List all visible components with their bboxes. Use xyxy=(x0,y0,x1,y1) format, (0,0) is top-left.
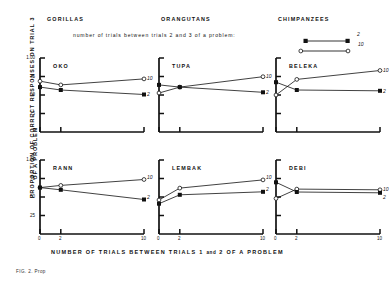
panel-title-debi: DEBI xyxy=(289,165,307,171)
series-label-beleka-2: 2 xyxy=(383,88,386,94)
xtick-rann-2: 2 xyxy=(59,236,62,241)
ytick-rann-75: 75 xyxy=(19,176,35,181)
group-heading-orangutans: ORANGUTANS xyxy=(161,16,211,22)
ytick-oko-100: 1.00 xyxy=(19,55,35,60)
xtick-rann-0: 0 xyxy=(38,236,41,241)
ytick-rann-50: 50 xyxy=(19,194,35,199)
x-axis-title: NUMBER OF TRIALS BETWEEN TRIALS 1 and 2 … xyxy=(51,249,284,255)
series-label-oko-2: 2 xyxy=(147,91,150,97)
xtick-debi-2: 2 xyxy=(295,236,298,241)
x-axis-title-main: NUMBER OF TRIALS BETWEEN TRIALS 1 xyxy=(51,249,204,255)
panel-title-tupa: TUPA xyxy=(172,63,191,69)
legend-line-10-icon xyxy=(298,47,356,55)
ytick-oko-25: 25 xyxy=(19,111,35,116)
legend-label-2: 2 xyxy=(357,31,360,37)
panel-title-lembak: LEMBAK xyxy=(172,165,202,171)
figure-caption-stub: FIG. 2. Prop xyxy=(16,269,46,274)
ytick-oko-75: 75 xyxy=(19,74,35,79)
group-heading-chimpanzees: CHIMPANZEES xyxy=(278,16,329,22)
series-label-rann-10: 10 xyxy=(147,174,153,180)
series-label-tupa-10: 10 xyxy=(266,73,272,79)
panel-title-beleka: BELEKA xyxy=(289,63,318,69)
ytick-rann-25: 25 xyxy=(19,213,35,218)
xtick-lembak-2: 2 xyxy=(178,236,181,241)
x-axis-title-mid: and xyxy=(206,250,216,255)
x-axis-title-end: 2 OF A PROBLEM xyxy=(219,249,284,255)
xtick-debi-0: 0 xyxy=(274,236,277,241)
xtick-rann-10: 10 xyxy=(141,236,146,241)
ytick-oko-50: 50 xyxy=(19,92,35,97)
xtick-lembak-10: 10 xyxy=(260,236,265,241)
series-label-debi-2: 2 xyxy=(383,194,386,200)
series-label-tupa-2: 2 xyxy=(266,89,269,95)
group-heading-gorillas: GORILLAS xyxy=(47,16,84,22)
series-label-rann-2: 2 xyxy=(147,194,150,200)
series-label-oko-10: 10 xyxy=(147,75,153,81)
ytick-rann-100: 1.00 xyxy=(19,157,35,162)
series-label-beleka-10: 10 xyxy=(383,67,389,73)
legend-label-10: 10 xyxy=(358,41,364,47)
series-label-lembak-2: 2 xyxy=(266,186,269,192)
xtick-lembak-0: 0 xyxy=(157,236,160,241)
figure-root: GORILLAS ORANGUTANS CHIMPANZEES number o… xyxy=(0,0,390,281)
panel-title-oko: OKO xyxy=(53,63,69,69)
xtick-debi-10: 10 xyxy=(377,236,382,241)
legend-caption: number of trials between trials 2 and 3 … xyxy=(73,32,236,38)
series-label-debi-10: 10 xyxy=(383,186,389,192)
series-label-lembak-10: 10 xyxy=(266,174,272,180)
panel-title-rann: RANN xyxy=(53,165,73,171)
